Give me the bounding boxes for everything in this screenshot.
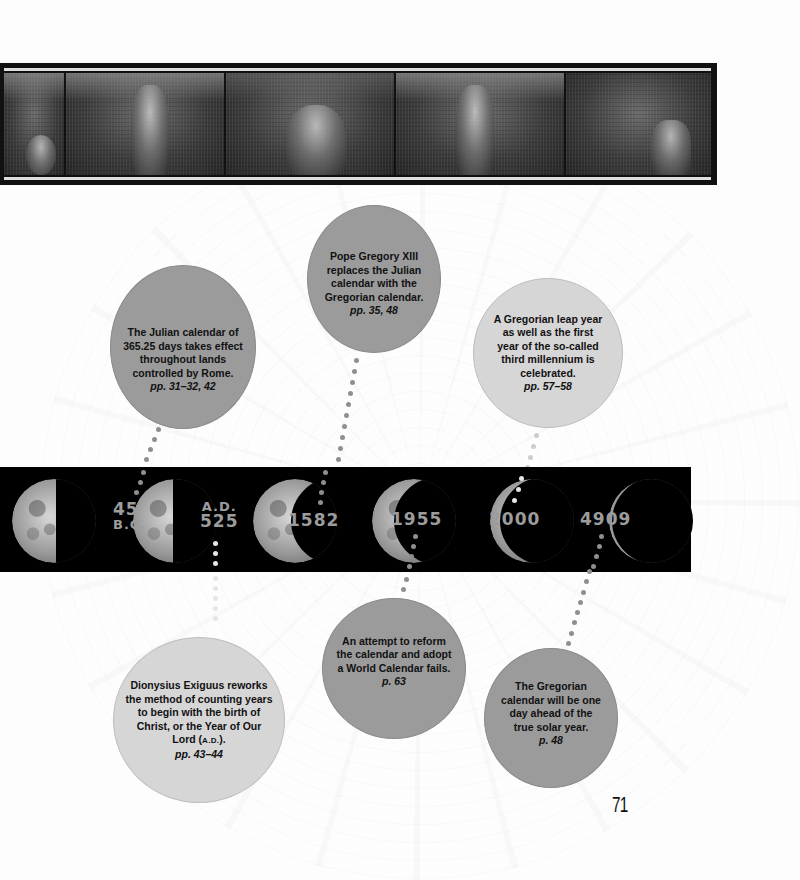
event-julian-text: The Julian calendar of 365.25 days takes… — [123, 326, 243, 379]
event-leap2000-ref: pp. 57–58 — [492, 380, 604, 394]
page-number: 71 — [612, 792, 628, 818]
event-world-calendar-ref: p. 63 — [335, 675, 453, 689]
event-dionysius-exiguus: Dionysius Exiguus reworks the method of … — [113, 637, 285, 803]
year-45-number: 45 — [113, 499, 139, 519]
year-1582: 1582 — [288, 512, 339, 529]
event-dionysius-ref: pp. 43–44 — [124, 748, 274, 762]
event-dionysius-text-after: ). — [219, 733, 225, 745]
year-1955: 1955 — [391, 511, 442, 528]
event-dionysius-abbr: A.D. — [202, 736, 219, 745]
banner-panel-2 — [66, 73, 224, 175]
banner-panel-5 — [566, 73, 711, 175]
event-dionysius-text: Dionysius Exiguus reworks the method of … — [125, 679, 272, 745]
year-525-ad: A.D. 525 — [200, 500, 239, 530]
event-pope-gregory: Pope Gregory XIII replaces the Julian ca… — [307, 205, 441, 353]
event-gregory-text: Pope Gregory XIII replaces the Julian ca… — [325, 250, 424, 303]
timeline-band: 45 B.C. A.D. 525 1582 1955 2000 4909 — [0, 467, 691, 572]
event-julian-calendar: The Julian calendar of 365.25 days takes… — [110, 265, 256, 429]
event-drift-ref: p. 48 — [499, 734, 603, 748]
event-leap-year-2000: A Gregorian leap year as well as the fir… — [473, 278, 623, 428]
year-2000: 2000 — [489, 511, 540, 528]
event-gregory-ref: pp. 35, 48 — [316, 304, 432, 318]
moon-phase-1 — [12, 479, 96, 563]
event-gregorian-drift-4909: The Gregorian calendar will be one day a… — [484, 648, 618, 788]
banner-panel-1 — [4, 73, 64, 175]
banner-panel-3 — [226, 73, 394, 175]
year-45-bc: 45 B.C. — [113, 501, 146, 531]
event-leap2000-text: A Gregorian leap year as well as the fir… — [494, 313, 603, 379]
event-drift-text: The Gregorian calendar will be one day a… — [501, 680, 601, 733]
banner-rule-top — [4, 68, 711, 71]
year-45-era: B.C. — [113, 518, 146, 531]
year-525-number: 525 — [200, 511, 239, 531]
event-world-calendar-text: An attempt to reform the calendar and ad… — [337, 635, 452, 674]
event-world-calendar: An attempt to reform the calendar and ad… — [322, 598, 466, 739]
event-julian-ref: pp. 31–32, 42 — [119, 380, 247, 394]
year-4909: 4909 — [580, 511, 631, 528]
banner-rule-bottom — [4, 177, 711, 180]
banner-panel-4 — [396, 73, 564, 175]
illustration-banner — [0, 63, 717, 185]
banner-panels — [4, 73, 711, 175]
